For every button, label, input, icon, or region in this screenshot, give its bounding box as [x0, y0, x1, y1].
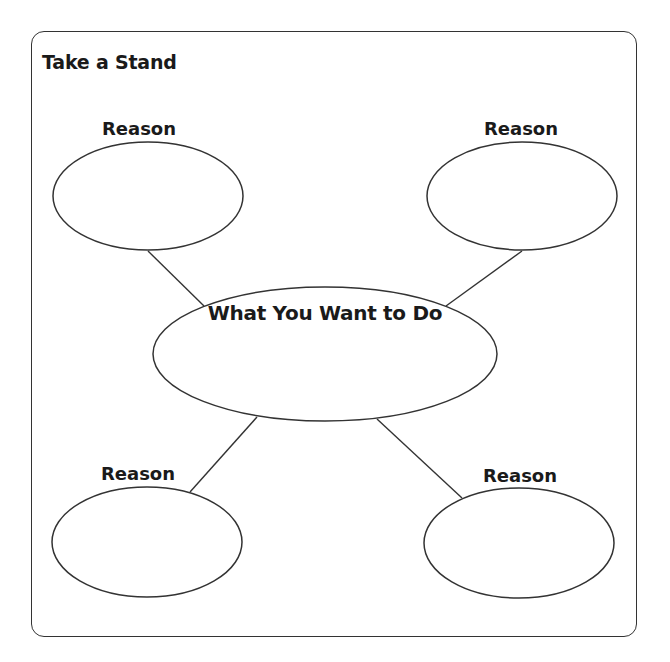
worksheet-title: Take a Stand — [42, 53, 177, 72]
connector-top-left — [148, 251, 204, 306]
connector-top-right — [446, 251, 522, 306]
reason-label-bottom-left: Reason — [101, 465, 175, 483]
reason-ellipse-top-right[interactable] — [427, 142, 617, 250]
reason-label-top-right: Reason — [484, 120, 558, 138]
connector-bottom-right — [377, 419, 462, 498]
web-diagram — [0, 0, 670, 662]
reason-ellipse-top-left[interactable] — [53, 142, 243, 250]
reason-ellipse-bottom-right[interactable] — [424, 488, 614, 598]
reason-label-top-left: Reason — [102, 120, 176, 138]
reason-label-bottom-right: Reason — [483, 467, 557, 485]
reason-ellipse-bottom-left[interactable] — [52, 487, 242, 597]
connector-bottom-left — [190, 417, 257, 492]
center-label: What You Want to Do — [208, 303, 442, 323]
